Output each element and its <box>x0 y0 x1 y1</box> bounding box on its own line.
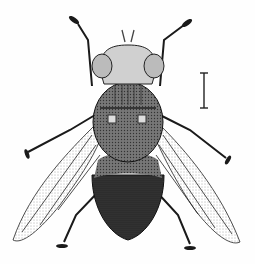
right-eye <box>144 54 164 78</box>
left-eye <box>92 54 112 78</box>
front-feet <box>68 15 194 29</box>
fly-drawing <box>0 0 255 264</box>
fly-illustration <box>0 0 255 264</box>
scale-bar <box>200 73 208 108</box>
abdomen <box>92 175 164 240</box>
antennae <box>122 30 134 42</box>
